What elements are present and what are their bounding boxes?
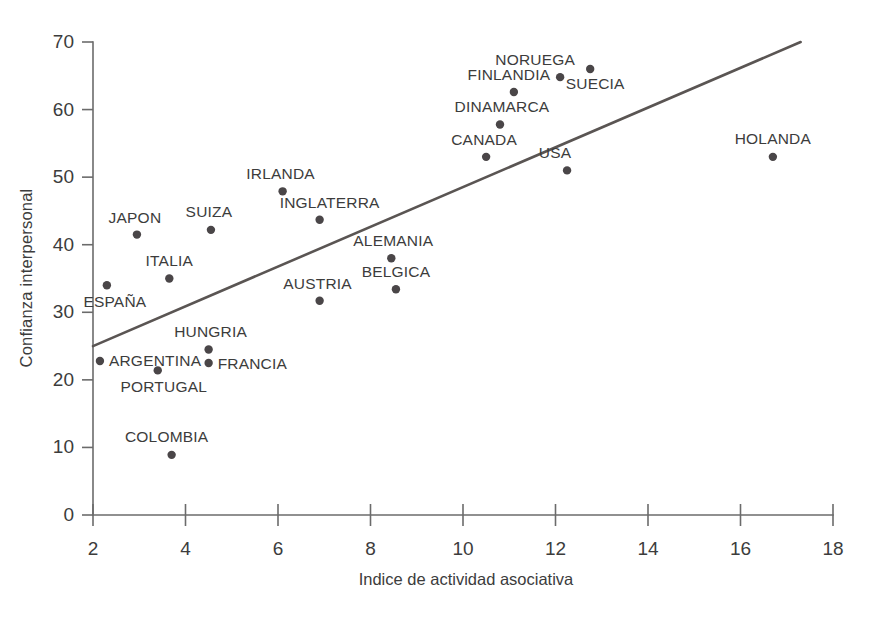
data-point-label: SUECIA	[566, 75, 625, 92]
y-tick-label: 0	[63, 504, 74, 525]
x-tick-label: 16	[730, 538, 751, 559]
y-tick-label: 20	[53, 369, 74, 390]
y-tick-label: 40	[53, 234, 74, 255]
data-point	[392, 285, 400, 293]
data-point-label: FRANCIA	[218, 355, 288, 372]
x-tick-label: 10	[452, 538, 473, 559]
data-point	[167, 451, 175, 459]
data-point-label: HUNGRIA	[174, 323, 247, 340]
x-tick-label: 18	[822, 538, 843, 559]
data-point	[563, 166, 571, 174]
x-tick-label: 6	[273, 538, 284, 559]
data-point	[207, 226, 215, 234]
data-point-label: CANADA	[451, 131, 517, 148]
data-point-label: BELGICA	[362, 263, 431, 280]
data-point-label: PORTUGAL	[120, 378, 207, 395]
y-tick-label: 30	[53, 301, 74, 322]
data-point	[133, 230, 141, 238]
trend-line	[93, 42, 801, 346]
y-tick-label: 10	[53, 436, 74, 457]
data-points	[96, 65, 777, 459]
x-tick-label: 2	[88, 538, 99, 559]
data-point-label: JAPON	[109, 209, 162, 226]
data-point-label: AUSTRIA	[283, 275, 352, 292]
data-point	[204, 345, 212, 353]
data-point-labels: ESPAÑAARGENTINAJAPONPORTUGALCOLOMBIAITAL…	[83, 51, 811, 445]
data-point	[510, 88, 518, 96]
scatter-chart: 010203040506070 24681012141618 ESPAÑAARG…	[0, 0, 870, 621]
y-axis-title: Confianza interpersonal	[17, 189, 35, 368]
data-point-label: SUIZA	[186, 203, 233, 220]
y-tick-label: 70	[53, 31, 74, 52]
data-point-label: HOLANDA	[735, 130, 812, 147]
data-point-label: NORUEGA	[495, 51, 575, 68]
data-point-label: INGLATERRA	[280, 194, 380, 211]
data-point	[387, 254, 395, 262]
data-point	[96, 357, 104, 365]
y-tick-label: 60	[53, 99, 74, 120]
data-point-label: ESPAÑA	[83, 293, 146, 310]
data-point-label: DINAMARCA	[455, 98, 550, 115]
data-point	[204, 359, 212, 367]
x-tick-label: 12	[545, 538, 566, 559]
data-point	[496, 120, 504, 128]
data-point	[103, 281, 111, 289]
regression-line	[93, 42, 801, 346]
data-point	[315, 297, 323, 305]
data-point-label: USA	[539, 144, 572, 161]
x-tick-label: 4	[180, 538, 191, 559]
data-point	[165, 274, 173, 282]
x-tick-label: 14	[637, 538, 659, 559]
x-axis-title: Indice de actividad asociativa	[359, 570, 574, 588]
data-point-label: FINLANDIA	[467, 66, 550, 83]
chart-canvas: 010203040506070 24681012141618 ESPAÑAARG…	[0, 0, 870, 621]
x-tick-labels: 24681012141618	[88, 538, 844, 559]
data-point	[482, 153, 490, 161]
data-point-label: IRLANDA	[246, 165, 315, 182]
y-tick-label: 50	[53, 166, 74, 187]
data-point-label: ARGENTINA	[109, 352, 202, 369]
data-point-label: ITALIA	[146, 252, 194, 269]
data-point-label: ALEMANIA	[353, 232, 433, 249]
y-tick-labels: 010203040506070	[53, 31, 74, 525]
data-point	[586, 65, 594, 73]
data-point	[315, 216, 323, 224]
x-tick-label: 8	[365, 538, 376, 559]
data-point-label: COLOMBIA	[125, 428, 209, 445]
data-point	[769, 153, 777, 161]
data-point	[556, 73, 564, 81]
